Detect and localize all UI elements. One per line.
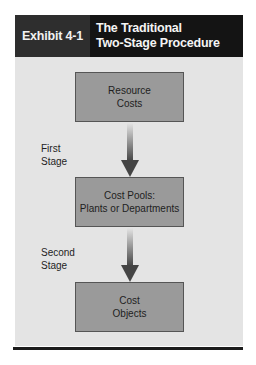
node-label-line1: Resource	[108, 84, 151, 97]
arrow-shaft	[127, 123, 133, 163]
node-cost-pools: Cost Pools: Plants or Departments	[75, 177, 184, 227]
exhibit-label: Exhibit 4-1	[15, 15, 90, 57]
node-cost-objects: Cost Objects	[75, 282, 184, 332]
stage-label-first: First Stage	[41, 142, 67, 168]
stage-label-line1: Second	[41, 246, 75, 259]
exhibit-title: The Traditional Two-Stage Procedure	[90, 15, 243, 57]
exhibit-title-line2: Two-Stage Procedure	[96, 36, 243, 51]
node-label-line1: Cost	[119, 294, 140, 307]
stage-label-line2: Stage	[41, 155, 67, 168]
stage-label-second: Second Stage	[41, 246, 75, 272]
exhibit-title-line1: The Traditional	[96, 21, 243, 36]
arrow-head	[121, 160, 139, 177]
arrow-second-stage	[120, 228, 140, 282]
arrow-shaft	[127, 228, 133, 268]
stage-label-line2: Stage	[41, 259, 75, 272]
bottom-rule	[13, 347, 243, 350]
arrow-first-stage	[120, 123, 140, 177]
node-label-line2: Objects	[113, 307, 147, 320]
node-label-line1: Cost Pools:	[104, 189, 155, 202]
exhibit-header: Exhibit 4-1 The Traditional Two-Stage Pr…	[15, 15, 243, 57]
node-resource-costs: Resource Costs	[75, 72, 184, 122]
arrow-head	[121, 265, 139, 282]
stage-label-line1: First	[41, 142, 67, 155]
node-label-line2: Costs	[117, 97, 143, 110]
node-label-line2: Plants or Departments	[80, 202, 180, 215]
